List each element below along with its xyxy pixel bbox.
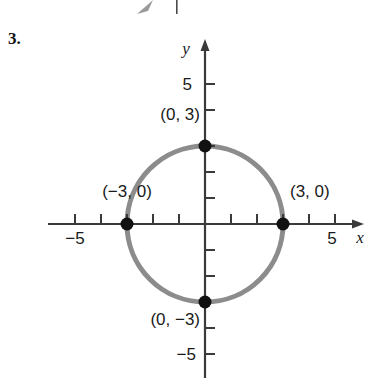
y-tick-label-neg5: −5 — [177, 345, 196, 364]
x-axis-label: x — [355, 228, 364, 247]
point-0-neg3 — [199, 296, 212, 309]
point-0-3 — [199, 140, 212, 153]
x-tick-label-5: 5 — [327, 229, 336, 248]
y-tick-label-5: 5 — [183, 75, 192, 94]
point-label-left: (−3, 0) — [102, 182, 152, 201]
coordinate-plane: y x −5 5 5 −5 (0, 3) (−3, 0) (3, 0) (0, … — [0, 0, 390, 388]
y-axis — [201, 39, 216, 378]
point-3-0 — [277, 218, 290, 231]
point-label-bottom: (0, −3) — [150, 310, 200, 329]
point-label-right: (3, 0) — [290, 182, 330, 201]
y-axis-label: y — [180, 39, 190, 58]
point-label-top: (0, 3) — [160, 105, 200, 124]
x-tick-label-neg5: −5 — [65, 229, 84, 248]
point-neg3-0 — [121, 218, 134, 231]
figure-container: 3. — [0, 0, 390, 388]
